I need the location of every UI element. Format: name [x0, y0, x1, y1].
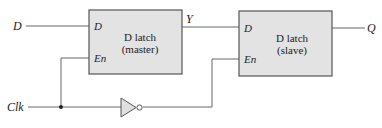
- label-clk-input: Clk: [7, 100, 24, 114]
- label-q-output: Q: [367, 21, 376, 35]
- wire-clk-master-en: [61, 58, 89, 107]
- slave-pin-d: D: [243, 22, 252, 34]
- master-title-line1: D latch: [124, 31, 157, 43]
- flip-flop-diagram: D En D latch (master) D En D latch (slav…: [0, 0, 382, 128]
- master-title-line2: (master): [122, 43, 159, 56]
- slave-title-line2: (slave): [277, 44, 307, 57]
- label-d-input: D: [12, 19, 22, 33]
- master-pin-en: En: [93, 52, 107, 64]
- label-y: Y: [186, 12, 194, 26]
- junction-dot: [59, 105, 63, 109]
- slave-title-line1: D latch: [276, 32, 309, 44]
- inverter-icon: [121, 98, 136, 117]
- master-pin-d: D: [93, 20, 102, 32]
- inverter-bubble: [137, 105, 142, 110]
- slave-pin-en: En: [243, 53, 257, 65]
